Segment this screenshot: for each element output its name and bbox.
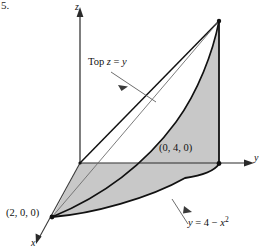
top-surface-leader-line — [111, 72, 156, 102]
vertex-dot-y4 — [217, 161, 222, 166]
curve-equation-exponent: 2 — [225, 215, 229, 224]
x-axis-label: x — [31, 238, 35, 248]
problem-number: 5. — [1, 0, 9, 11]
top-surface-equals: = — [111, 56, 122, 67]
z-axis-label: z — [75, 2, 79, 12]
point-label-y-axis: (0, 4, 0) — [159, 143, 192, 154]
top-surface-prefix: Top — [88, 56, 107, 67]
vertex-dot-x2 — [50, 215, 55, 220]
figure-container: 5. z y x Top z = y (0, 4, 0) (2, 0, 0) y… — [0, 0, 261, 252]
vertex-dot-origin — [78, 161, 81, 164]
base-curve-equation-annotation: y = 4 − x2 — [188, 218, 229, 229]
y-axis-label: y — [254, 153, 258, 163]
top-surface-leader-arrowhead — [118, 85, 128, 91]
top-surface-annotation: Top z = y — [88, 57, 127, 68]
base-footprint-region — [52, 163, 219, 217]
top-surface-variable-y: y — [122, 56, 127, 67]
y-axis-arrowhead — [244, 160, 254, 167]
curve-equation-leader-arrowhead — [183, 206, 192, 214]
vertex-dot-apex — [217, 19, 221, 23]
curve-equation-equals: = 4 − — [193, 217, 221, 228]
point-label-x-axis: (2, 0, 0) — [6, 208, 39, 219]
